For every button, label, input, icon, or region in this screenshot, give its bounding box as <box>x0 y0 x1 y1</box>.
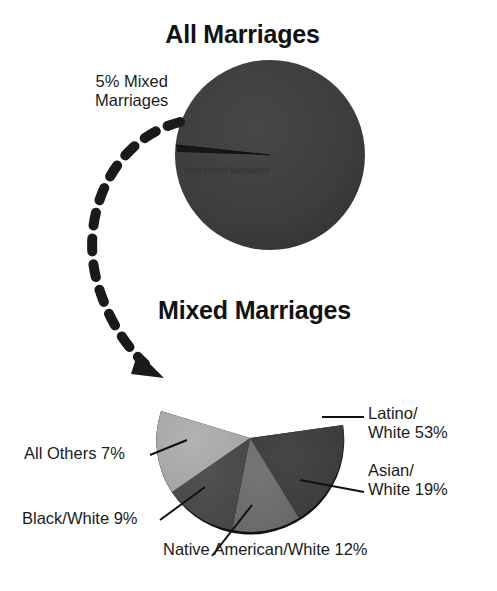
leader-line-asian <box>300 480 364 492</box>
label-asian-white: Asian/ White 19% <box>368 461 448 499</box>
label-all-others: All Others 7% <box>24 444 125 463</box>
label-black-white: Black/White 9% <box>22 509 138 528</box>
leader-line-others <box>150 440 187 455</box>
label-native-american-white: Native American/White 12% <box>163 540 368 559</box>
label-latino-line1: Latino/ <box>368 404 448 423</box>
label-asian-line2: White 19% <box>368 480 448 499</box>
label-asian-line1: Asian/ <box>368 461 448 480</box>
pie-chart-figure: All Marriages <box>0 0 497 591</box>
leader-lines <box>0 0 497 591</box>
leader-line-black <box>160 487 205 520</box>
label-latino-white: Latino/ White 53% <box>368 404 448 442</box>
label-latino-line2: White 53% <box>368 423 448 442</box>
